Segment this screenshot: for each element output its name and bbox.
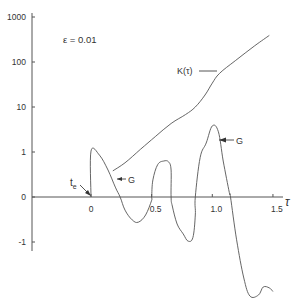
g-arrowhead-1 bbox=[117, 177, 122, 181]
y-tick-label: -1 bbox=[18, 237, 26, 247]
x-tick-label: 0.5 bbox=[150, 204, 162, 214]
k-tau-curve bbox=[113, 35, 269, 171]
te-label: te bbox=[70, 177, 77, 190]
y-tick-label: 1 bbox=[21, 147, 26, 157]
te-label-sub: e bbox=[73, 183, 77, 190]
epsilon-annotation: ε = 0.01 bbox=[63, 34, 97, 45]
y-tick-label: 100 bbox=[12, 57, 26, 67]
chart: 10001001010-100.51.01.5 ε = 0.01 τ K(τ) … bbox=[0, 0, 299, 303]
y-tick-label: 10 bbox=[17, 102, 27, 112]
g-label-1: G bbox=[128, 175, 135, 185]
x-axis-label: τ bbox=[285, 195, 291, 209]
g-curve bbox=[90, 125, 273, 297]
x-tick-label: 0 bbox=[89, 204, 94, 214]
y-tick-label: 1000 bbox=[7, 12, 26, 22]
x-tick-label: 1.5 bbox=[271, 204, 283, 214]
x-tick-label: 1.0 bbox=[210, 204, 222, 214]
g-label-2: G bbox=[236, 136, 243, 146]
y-tick-label: 0 bbox=[21, 192, 26, 202]
k-curve-label: K(τ) bbox=[177, 66, 193, 76]
